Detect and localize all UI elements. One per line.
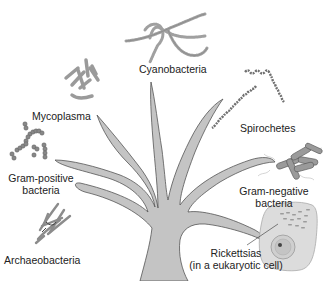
label-cyanobacteria: Cyanobacteria	[139, 63, 207, 75]
rod-cluster-icon	[66, 60, 98, 98]
label-rickettsias: Rickettsias (in a eukaryotic cell)	[176, 247, 296, 271]
label-gram-negative: Gram-negative bacteria	[232, 185, 316, 209]
cocci-chain-icon	[10, 122, 47, 160]
filament-icon	[126, 14, 207, 62]
label-gram-negative-line2: bacteria	[232, 197, 316, 209]
bacterial-phylogeny-diagram: Cyanobacteria Mycoplasma Spirochetes Gra…	[0, 0, 324, 281]
label-gram-positive: Gram-positive bacteria	[6, 172, 76, 196]
label-archaeobacteria: Archaeobacteria	[4, 254, 80, 266]
label-gram-positive-line1: Gram-positive	[6, 172, 76, 184]
tree-graphic	[0, 0, 324, 281]
label-gram-positive-line2: bacteria	[6, 184, 76, 196]
label-mycoplasma: Mycoplasma	[32, 110, 91, 122]
label-rickettsias-line2: (in a eukaryotic cell)	[176, 259, 296, 271]
label-spirochetes: Spirochetes	[240, 122, 295, 134]
label-gram-negative-line1: Gram-negative	[232, 185, 316, 197]
label-rickettsias-line1: Rickettsias	[176, 247, 296, 259]
filament-outline	[126, 14, 207, 55]
branching-filament-icon	[36, 204, 70, 243]
